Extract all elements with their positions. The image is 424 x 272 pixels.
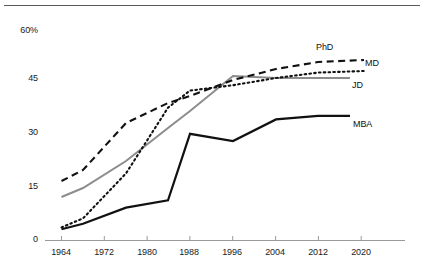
chart-plot-area [0, 0, 424, 272]
series-line-mba [62, 116, 351, 229]
series-line-md [62, 71, 365, 227]
chart-figure: 60% 45 30 15 0 1964 1972 1980 1988 1996 … [0, 0, 424, 272]
x-axis-ticks [62, 236, 362, 240]
x-axis [45, 236, 405, 241]
